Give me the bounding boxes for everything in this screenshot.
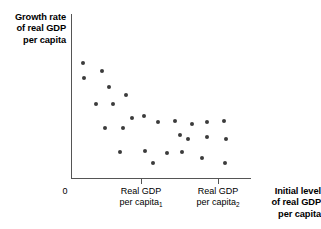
scatter-point — [82, 76, 86, 80]
scatter-point — [130, 116, 134, 120]
scatter-point — [151, 161, 155, 165]
chart-figure: Growth rate of real GDP per capita 0 Rea… — [0, 0, 321, 229]
x-tick-label-1: Real GDP per capita1 — [105, 186, 177, 208]
scatter-point — [178, 133, 182, 137]
scatter-point — [94, 102, 98, 106]
y-axis-title-line-2: of real GDP — [0, 23, 66, 34]
y-axis-line — [71, 14, 72, 179]
scatter-point — [142, 114, 146, 118]
x-axis-title-line-1: Initial level — [252, 186, 321, 197]
y-axis-title-line-3: per capita — [0, 35, 66, 46]
scatter-point — [111, 102, 115, 106]
x-tick-label-2-line-2: per capita2 — [182, 197, 254, 209]
scatter-point — [190, 122, 194, 126]
origin-label: 0 — [58, 186, 72, 196]
scatter-point — [180, 150, 184, 154]
scatter-point — [124, 93, 128, 97]
x-axis-title: Initial level of real GDP per capita — [252, 186, 321, 220]
x-axis-line — [71, 178, 251, 179]
x-tick-label-2-text: per capita — [196, 197, 236, 207]
x-axis-tick-1 — [141, 179, 142, 184]
scatter-point — [81, 61, 85, 65]
scatter-point — [100, 69, 104, 73]
x-tick-label-2: Real GDP per capita2 — [182, 186, 254, 208]
scatter-point — [103, 126, 107, 130]
scatter-point — [143, 149, 147, 153]
scatter-point — [200, 156, 204, 160]
y-axis-title-line-1: Growth rate — [0, 12, 66, 23]
x-tick-label-1-subscript: 1 — [159, 201, 163, 208]
x-tick-label-1-line-2: per capita1 — [105, 197, 177, 209]
x-axis-title-line-2: of real GDP — [252, 197, 321, 208]
scatter-point — [118, 150, 122, 154]
scatter-point — [156, 120, 160, 124]
x-tick-label-2-subscript: 2 — [236, 201, 240, 208]
x-tick-label-1-line-1: Real GDP — [105, 186, 177, 197]
scatter-point — [107, 85, 111, 89]
scatter-point — [121, 126, 125, 130]
scatter-point — [224, 137, 228, 141]
x-tick-label-1-text: per capita — [119, 197, 159, 207]
scatter-point — [173, 119, 177, 123]
scatter-point — [186, 137, 190, 141]
scatter-point — [222, 119, 226, 123]
scatter-point — [205, 135, 209, 139]
x-axis-tick-2 — [218, 179, 219, 184]
x-axis-title-line-3: per capita — [252, 209, 321, 220]
x-tick-label-2-line-1: Real GDP — [182, 186, 254, 197]
scatter-point — [205, 120, 209, 124]
y-axis-title: Growth rate of real GDP per capita — [0, 12, 66, 46]
scatter-point — [165, 151, 169, 155]
scatter-point — [223, 161, 227, 165]
